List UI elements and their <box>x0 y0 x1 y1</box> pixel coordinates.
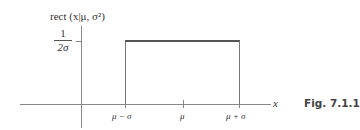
y-tick-label: 1 2σ <box>52 28 74 53</box>
y-tick-denominator: 2σ <box>52 41 74 53</box>
y-axis-label: rect (x|μ, σ²) <box>50 11 105 22</box>
x-tick-label-mu: μ <box>180 112 185 121</box>
x-tick-label-mu-plus-sigma: μ + σ <box>226 112 246 121</box>
figure-caption: Fig. 7.1.1 <box>304 98 360 109</box>
x-tick-label-mu-minus-sigma: μ − σ <box>112 112 132 121</box>
x-axis-label: x <box>273 98 278 109</box>
y-tick-numerator: 1 <box>52 28 74 40</box>
